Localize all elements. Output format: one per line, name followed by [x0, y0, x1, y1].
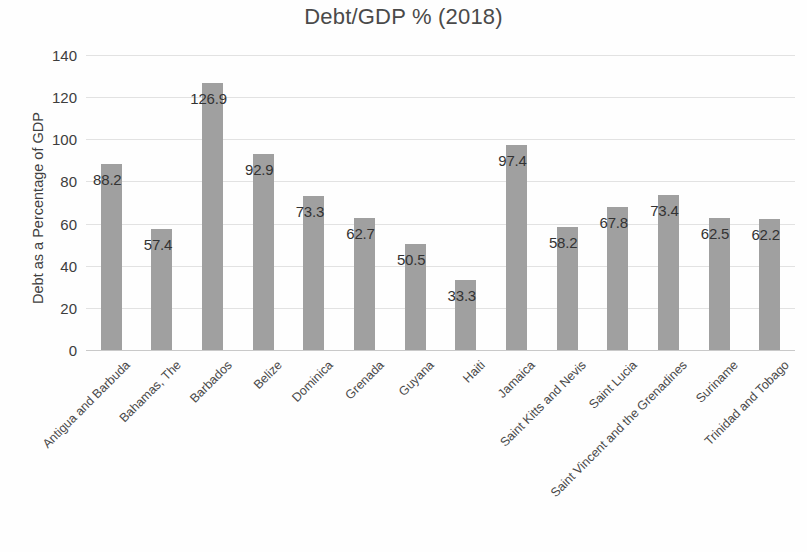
bar-value-label: 33.3 — [448, 287, 476, 304]
gridline — [86, 55, 795, 56]
gridline — [86, 181, 795, 182]
bar-value-label: 57.4 — [144, 236, 172, 253]
x-axis-category-label: Barbados — [187, 358, 235, 406]
x-axis-category-label: Guyana — [396, 358, 437, 399]
bar[interactable] — [101, 164, 122, 350]
chart-title: Debt/GDP % (2018) — [0, 4, 807, 30]
x-axis-category-label: Haiti — [460, 358, 488, 386]
bar-value-label: 67.8 — [600, 214, 628, 231]
bar-value-label: 50.5 — [397, 251, 425, 268]
x-axis-category-label: Jamaica — [496, 358, 539, 401]
gridline — [86, 139, 795, 140]
gridline — [86, 308, 795, 309]
x-axis-category-label: Saint Lucia — [586, 358, 640, 412]
bar[interactable] — [202, 83, 223, 350]
y-axis-tick-label: 100 — [52, 131, 77, 148]
bar[interactable] — [506, 145, 527, 350]
gridline — [86, 224, 795, 225]
bar-value-label: 73.4 — [650, 202, 678, 219]
bar-value-label: 62.5 — [701, 225, 729, 242]
y-axis-tick-label: 40 — [60, 257, 77, 274]
y-axis-tick-label: 60 — [60, 215, 77, 232]
y-axis-tick-label: 140 — [52, 47, 77, 64]
x-axis-category-label: Grenada — [342, 358, 386, 402]
y-axis-tick-label: 120 — [52, 89, 77, 106]
gridline — [86, 350, 795, 351]
bar-chart: Debt/GDP % (2018) Debt as a Percentage o… — [0, 0, 807, 552]
y-axis-tick-label: 80 — [60, 173, 77, 190]
bar-value-label: 88.2 — [93, 171, 121, 188]
x-axis-category-label: Trinidad and Tobago — [702, 358, 792, 448]
plot-area: 020406080100120140 88.257.4126.992.973.3… — [86, 55, 795, 350]
gridline — [86, 266, 795, 267]
bar-value-label: 62.2 — [751, 226, 779, 243]
y-axis-tick-label: 20 — [60, 299, 77, 316]
bar-value-label: 62.7 — [346, 225, 374, 242]
bar-value-label: 97.4 — [498, 152, 526, 169]
y-axis-title: Debt as a Percentage of GDP — [30, 78, 46, 338]
x-axis-category-label: Dominica — [289, 358, 336, 405]
bar-value-label: 73.3 — [296, 203, 324, 220]
y-axis-tick-label: 0 — [69, 342, 77, 359]
x-axis-category-label: Suriname — [693, 358, 741, 406]
x-axis-category-label: Saint Kitts and Nevis — [498, 358, 589, 449]
bar-value-label: 92.9 — [245, 161, 273, 178]
bar-value-label: 126.9 — [190, 90, 227, 107]
bar-value-label: 58.2 — [549, 234, 577, 251]
x-axis-category-label: Belize — [251, 358, 285, 392]
bar[interactable] — [253, 154, 274, 350]
x-axis-category-label: Antigua and Barbuda — [40, 358, 133, 451]
